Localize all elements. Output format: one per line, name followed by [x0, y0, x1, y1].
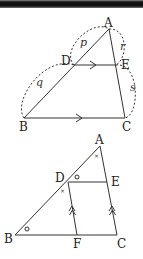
segment-DF	[68, 182, 77, 235]
point-label-C1: C	[122, 120, 131, 134]
figure-2	[15, 146, 117, 235]
figure-1	[21, 27, 135, 122]
segment-label-s: s	[130, 81, 136, 94]
point-label-E2: E	[111, 175, 120, 189]
figure-1-labels: A D E B C p q r s	[19, 16, 136, 134]
side-AB	[24, 29, 109, 118]
angle-mark-cross-A: ×	[94, 152, 99, 159]
segment-label-p: p	[80, 36, 87, 49]
angle-mark-circle-D	[75, 175, 79, 179]
geometry-diagram: A D E B C p q r s × × A D E B F C	[0, 0, 143, 259]
point-label-D2: D	[55, 171, 65, 185]
point-label-D1: D	[61, 54, 71, 68]
segment-label-r: r	[120, 40, 126, 53]
side-AB	[15, 146, 100, 235]
point-label-B1: B	[19, 120, 28, 134]
arc-p	[71, 27, 109, 65]
point-label-C2: C	[117, 237, 126, 251]
figure-2-labels: × × A D E B F C	[4, 133, 126, 251]
point-label-A1: A	[103, 16, 113, 30]
point-label-B2: B	[4, 232, 13, 246]
segment-label-q: q	[36, 76, 43, 89]
angle-mark-cross-D: ×	[60, 187, 65, 194]
side-AC	[100, 146, 117, 235]
point-label-A2: A	[94, 133, 104, 147]
point-label-F2: F	[73, 237, 81, 251]
arc-q	[21, 64, 74, 118]
point-label-E1: E	[121, 58, 130, 72]
angle-mark-circle-B	[25, 227, 29, 231]
